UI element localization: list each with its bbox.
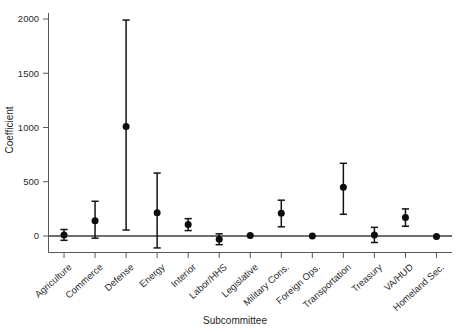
data-point-group bbox=[278, 200, 285, 227]
data-point-marker bbox=[309, 233, 316, 240]
chart-container: Coefficient 0500100015002000 Agriculture… bbox=[0, 0, 460, 332]
data-point-group bbox=[185, 219, 192, 231]
y-tick-label: 500 bbox=[23, 176, 39, 187]
data-point-marker bbox=[61, 231, 68, 238]
x-category-label: Interior bbox=[169, 261, 198, 289]
data-point-marker bbox=[371, 231, 378, 238]
data-point-group bbox=[247, 232, 254, 239]
data-point-marker bbox=[340, 184, 347, 191]
data-point-group bbox=[154, 173, 161, 248]
y-tick-label: 2000 bbox=[18, 13, 39, 24]
x-axis-category-labels: AgricultureCommerceDefenseEnergyInterior… bbox=[33, 261, 447, 313]
x-category-label: Defense bbox=[102, 261, 136, 293]
data-point-group bbox=[122, 20, 129, 230]
data-point-marker bbox=[185, 221, 192, 228]
data-point-group bbox=[433, 233, 440, 240]
data-series-layer bbox=[60, 20, 440, 248]
data-point-marker bbox=[433, 233, 440, 240]
data-point-group bbox=[91, 201, 98, 238]
data-point-group bbox=[340, 163, 347, 214]
data-point-group bbox=[60, 229, 67, 240]
y-tick-label: 1500 bbox=[18, 68, 39, 79]
y-axis-ticks: 0500100015002000 bbox=[18, 13, 49, 241]
y-axis-title: Coefficient bbox=[4, 106, 15, 153]
x-category-label: Energy bbox=[137, 261, 167, 289]
y-tick-label: 1000 bbox=[18, 122, 39, 133]
y-tick-label: 0 bbox=[34, 230, 39, 241]
data-point-marker bbox=[278, 210, 285, 217]
data-point-marker bbox=[154, 209, 161, 216]
data-point-marker bbox=[123, 123, 130, 130]
x-category-label: Treasury bbox=[349, 261, 384, 294]
y-axis-title-group: Coefficient bbox=[4, 106, 15, 153]
data-point-marker bbox=[92, 217, 99, 224]
x-axis-title: Subcommittee bbox=[203, 315, 267, 326]
data-point-marker bbox=[247, 232, 254, 239]
data-point-marker bbox=[402, 214, 409, 221]
data-point-marker bbox=[216, 236, 223, 243]
coefficient-plot: Coefficient 0500100015002000 Agriculture… bbox=[0, 0, 460, 332]
data-point-group bbox=[371, 227, 378, 242]
data-point-group bbox=[402, 209, 409, 226]
data-point-group bbox=[309, 233, 316, 240]
x-axis-ticks bbox=[64, 253, 436, 259]
plot-frame bbox=[49, 13, 453, 253]
